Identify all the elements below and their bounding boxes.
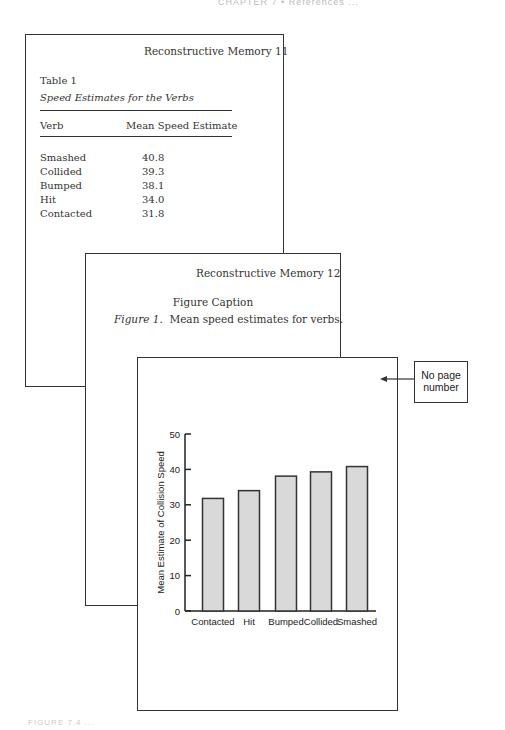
table-row: Contacted31.8 — [40, 208, 240, 222]
bar-chart: 01020304050Mean Estimate of Collision Sp… — [138, 358, 396, 709]
table-top-rule — [40, 110, 232, 111]
table-row: Smashed40.8 — [40, 152, 240, 166]
table-row: Hit34.0 — [40, 194, 240, 208]
verb-cell: Smashed — [40, 152, 86, 163]
caption-text: Mean speed estimates for verbs. — [169, 313, 343, 325]
table-row: Bumped38.1 — [40, 180, 240, 194]
x-tick-label: Smashed — [337, 616, 377, 627]
value-cell: 39.3 — [142, 166, 164, 177]
y-tick-label: 50 — [169, 429, 180, 440]
page-header: Reconstructive Memory 11 — [144, 45, 288, 57]
column-header-verb: Verb — [40, 120, 63, 131]
value-cell: 34.0 — [142, 194, 164, 205]
table-label: Table 1 — [40, 75, 77, 86]
manuscript-page-figure: 01020304050Mean Estimate of Collision Sp… — [137, 357, 398, 711]
table-row: Collided39.3 — [40, 166, 240, 180]
figure-caption: Figure 1. Mean speed estimates for verbs… — [114, 313, 343, 325]
x-tick-label: Contacted — [191, 616, 234, 627]
verb-cell: Collided — [40, 166, 82, 177]
y-tick-label: 20 — [169, 535, 180, 546]
y-tick-label: 10 — [169, 570, 180, 581]
x-tick-label: Hit — [243, 616, 255, 627]
column-header-mean: Mean Speed Estimate — [126, 120, 237, 131]
value-cell: 38.1 — [142, 180, 164, 191]
bar — [203, 498, 224, 611]
x-tick-label: Collided — [304, 616, 338, 627]
figure-caption-footer: FIGURE 7.4 ... — [28, 718, 94, 727]
verb-cell: Hit — [40, 194, 56, 205]
figure-label: Figure 1. — [114, 313, 163, 325]
y-tick-label: 40 — [169, 464, 180, 475]
callout-no-page-number: No page number — [414, 361, 468, 403]
bar — [311, 472, 332, 611]
verb-cell: Contacted — [40, 208, 92, 219]
table-header-rule — [40, 136, 232, 137]
y-tick-label: 30 — [169, 499, 180, 510]
running-head: CHAPTER 7 • References ... — [218, 0, 359, 7]
value-cell: 40.8 — [142, 152, 164, 163]
x-tick-label: Bumped — [268, 616, 303, 627]
verb-cell: Bumped — [40, 180, 82, 191]
page-header: Reconstructive Memory 12 — [196, 267, 340, 279]
y-tick-label: 0 — [175, 606, 180, 617]
caption-title: Figure Caption — [86, 296, 340, 308]
bar — [347, 467, 368, 611]
arrow-left-icon — [380, 375, 414, 383]
table-title: Speed Estimates for the Verbs — [40, 92, 194, 103]
y-axis-label: Mean Estimate of Collision Speed — [155, 451, 166, 594]
bar — [239, 491, 260, 611]
bar — [276, 476, 297, 611]
value-cell: 31.8 — [142, 208, 164, 219]
